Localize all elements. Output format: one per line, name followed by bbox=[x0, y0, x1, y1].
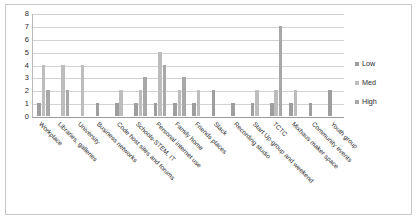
x-label-slot: Friends places bbox=[188, 119, 208, 215]
bar-group bbox=[92, 14, 111, 116]
legend-label: Low bbox=[362, 60, 375, 67]
y-tick-label: 7 bbox=[25, 23, 29, 31]
bar-group bbox=[34, 14, 53, 116]
bars-layer bbox=[34, 14, 344, 116]
bar-group bbox=[189, 14, 208, 116]
bar-med bbox=[139, 90, 143, 116]
legend-label: Med bbox=[362, 79, 376, 86]
legend-item-high[interactable]: High bbox=[355, 98, 407, 106]
bar-med bbox=[61, 65, 65, 117]
bar-high bbox=[66, 90, 70, 116]
bar-high bbox=[182, 77, 186, 116]
x-label-slot: Personal internet use bbox=[149, 119, 169, 215]
bar-group bbox=[170, 14, 189, 116]
bar-low bbox=[289, 103, 293, 116]
bar-med bbox=[294, 90, 298, 116]
x-label-slot: University bbox=[71, 119, 91, 215]
y-tick-label: 8 bbox=[25, 10, 29, 18]
x-label-slot: Business networks bbox=[91, 119, 111, 215]
bar-group bbox=[150, 14, 169, 116]
bar-group bbox=[208, 14, 227, 116]
x-label-slot: Workplace bbox=[32, 119, 52, 215]
y-tick-label: 5 bbox=[25, 49, 29, 57]
bar-med bbox=[255, 90, 259, 116]
y-tick-label: 2 bbox=[25, 88, 29, 96]
bar-high bbox=[163, 65, 167, 117]
x-label-slot: Youth group bbox=[325, 119, 345, 215]
bar-group bbox=[247, 14, 266, 116]
bar-med bbox=[42, 65, 46, 117]
y-tick-label: 1 bbox=[25, 100, 29, 108]
bar-group bbox=[286, 14, 305, 116]
bar-group bbox=[53, 14, 72, 116]
legend-swatch-icon bbox=[355, 81, 359, 85]
bar-med bbox=[81, 65, 85, 117]
bar-med bbox=[178, 90, 182, 116]
bar-low bbox=[270, 103, 274, 116]
bar-low bbox=[328, 90, 332, 116]
bar-med bbox=[274, 90, 278, 116]
bar-med bbox=[197, 90, 201, 116]
bar-low bbox=[212, 90, 216, 116]
legend-swatch-icon bbox=[355, 62, 359, 66]
bar-high bbox=[46, 90, 50, 116]
bar-group bbox=[73, 14, 92, 116]
bar-group bbox=[267, 14, 286, 116]
bar-low bbox=[251, 103, 255, 116]
bar-high bbox=[143, 77, 147, 116]
x-label-slot: Slack bbox=[208, 119, 228, 215]
bar-low bbox=[154, 103, 158, 116]
bar-group bbox=[131, 14, 150, 116]
x-label-slot: Start Up-group and weekend bbox=[247, 119, 267, 215]
bar-low bbox=[192, 103, 196, 116]
bar-low bbox=[231, 103, 235, 116]
legend-item-low[interactable]: Low bbox=[355, 60, 407, 68]
x-label-slot: TCTC bbox=[266, 119, 286, 215]
bar-low bbox=[96, 103, 100, 116]
bar-group bbox=[305, 14, 324, 116]
bar-low bbox=[115, 103, 119, 116]
y-tick-label: 6 bbox=[25, 36, 29, 44]
x-label-slot: Code host sites and forums bbox=[110, 119, 130, 215]
chart-screenshot: 012345678 WorkplaceLibraries, galleriesU… bbox=[0, 0, 419, 222]
bar-low bbox=[173, 103, 177, 116]
legend-label: High bbox=[362, 98, 377, 105]
x-label-slot: Schools-STEM, IT bbox=[130, 119, 150, 215]
x-label-slot: Libraries, galleries bbox=[52, 119, 72, 215]
x-label-slot: Family home bbox=[169, 119, 189, 215]
y-tick-label: 0 bbox=[25, 113, 29, 121]
bar-low bbox=[309, 103, 313, 116]
bar-low bbox=[37, 103, 41, 116]
legend-item-med[interactable]: Med bbox=[355, 79, 407, 87]
bar-group bbox=[112, 14, 131, 116]
plot-area: 012345678 bbox=[32, 14, 344, 118]
x-label-slot: Mixhaus maker space bbox=[286, 119, 306, 215]
bar-med bbox=[119, 90, 123, 116]
y-tick-label: 3 bbox=[25, 75, 29, 83]
chart-legend: LowMedHigh bbox=[355, 60, 407, 117]
x-label-slot: Recording studio bbox=[227, 119, 247, 215]
bar-group bbox=[228, 14, 247, 116]
legend-swatch-icon bbox=[355, 100, 359, 104]
x-axis-tick-labels: WorkplaceLibraries, galleriesUniversityB… bbox=[32, 119, 344, 215]
bar-high bbox=[279, 26, 283, 116]
bar-low bbox=[134, 103, 138, 116]
plot-wrapper: 012345678 bbox=[32, 14, 344, 118]
bar-med bbox=[158, 52, 162, 116]
bar-group bbox=[325, 14, 344, 116]
y-tick-label: 4 bbox=[25, 62, 29, 70]
x-label-slot: Community events bbox=[305, 119, 325, 215]
